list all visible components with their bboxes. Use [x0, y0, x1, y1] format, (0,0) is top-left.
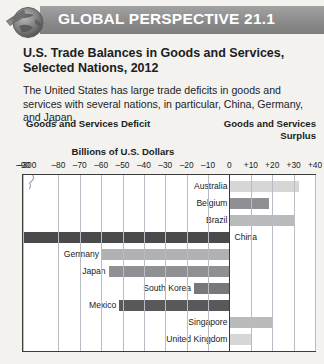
banner-title: GLOBAL PERSPECTIVE 21.1 [58, 10, 275, 28]
bar-china [24, 232, 230, 243]
surplus-label-line1: Goods and Services [224, 118, 316, 129]
bar-south-korea [194, 283, 230, 294]
gridline-12 [272, 175, 273, 351]
category-label-brazil: Brazil [23, 216, 227, 225]
bar-australia [230, 181, 298, 192]
bar-row: Germany [23, 246, 315, 263]
chart: Goods and Services Deficit Goods and Ser… [0, 118, 324, 364]
bar-row: Brazil [23, 212, 315, 229]
zero-axis-line [229, 175, 230, 351]
footer-strip [0, 358, 324, 364]
axis-break-marker [29, 175, 36, 351]
bar-row: Belgium [23, 195, 315, 212]
category-label-china: China [234, 233, 256, 242]
category-label-belgium: Belgium [23, 199, 227, 208]
gridline-4 [101, 175, 102, 351]
x-tick-11: +10 [244, 160, 258, 170]
plot-area: AustraliaBelgiumBrazilChinaGermanyJapanS… [22, 174, 316, 352]
bar-rows: AustraliaBelgiumBrazilChinaGermanyJapanS… [23, 175, 315, 351]
x-tick-12: +20 [265, 160, 279, 170]
gridline-8 [187, 175, 188, 351]
category-label-united-kingdom: United Kingdom [23, 335, 227, 344]
bar-brazil [230, 215, 294, 226]
x-tick-4: –60 [94, 160, 108, 170]
x-tick-2: –80 [51, 160, 65, 170]
surplus-label: Goods and Services Surplus [196, 118, 316, 141]
gridline-9 [208, 175, 209, 351]
bar-row: South Korea [23, 280, 315, 297]
deficit-label: Goods and Services Deficit [26, 118, 150, 129]
panel-background: GLOBAL PERSPECTIVE 21.1 U.S. Trade Balan… [0, 0, 324, 364]
bar-row: United Kingdom [23, 331, 315, 348]
surplus-label-line2: Surplus [280, 130, 316, 141]
category-label-australia: Australia [23, 182, 227, 191]
bar-japan [109, 266, 231, 277]
gridline-7 [165, 175, 166, 351]
gridline-14 [315, 175, 316, 351]
gridline-1 [23, 175, 24, 351]
x-axis-ticks: –300–90–80–70–60–50–40–30–20–100+10+20+3… [0, 160, 324, 173]
category-label-mexico: Mexico [23, 301, 116, 310]
x-tick-10: 0 [227, 160, 232, 170]
x-tick-5: –50 [116, 160, 130, 170]
x-tick-7: –30 [158, 160, 172, 170]
category-label-singapore: Singapore [23, 318, 227, 327]
bar-row: Mexico [23, 297, 315, 314]
x-tick-8: –20 [180, 160, 194, 170]
x-tick-13: +30 [287, 160, 301, 170]
bar-belgium [230, 198, 268, 209]
x-tick-1: –90 [16, 160, 30, 170]
gridline-3 [80, 175, 81, 351]
x-axis-title: Billions of U.S. Dollars [0, 146, 246, 157]
globe-icon [4, 2, 50, 42]
gridline-6 [144, 175, 145, 351]
bar-united-kingdom [230, 334, 251, 345]
gridline-2 [58, 175, 59, 351]
gridline-5 [123, 175, 124, 351]
x-tick-6: –40 [137, 160, 151, 170]
bar-mexico [119, 300, 230, 311]
banner: GLOBAL PERSPECTIVE 21.1 [0, 6, 324, 38]
x-tick-3: –70 [73, 160, 87, 170]
page-title: U.S. Trade Balances in Goods and Service… [23, 46, 313, 76]
x-tick-14: +40 [308, 160, 322, 170]
bar-row: Japan [23, 263, 315, 280]
bar-row: Singapore [23, 314, 315, 331]
x-tick-9: –10 [201, 160, 215, 170]
gridline-13 [294, 175, 295, 351]
gridline-11 [251, 175, 252, 351]
bar-row: Australia [23, 178, 315, 195]
bar-row: China [23, 229, 315, 246]
